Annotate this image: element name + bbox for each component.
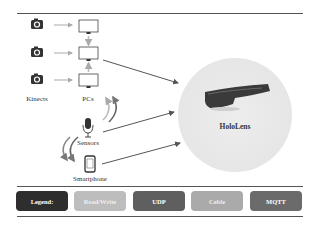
smartphone-label: Smartphone — [73, 175, 107, 183]
camera-icon-1 — [31, 19, 43, 30]
pcs-label: PCs — [82, 95, 93, 103]
legend-read-write: Read/Write — [74, 191, 126, 211]
monitor-icon-1 — [79, 20, 98, 34]
legend-title: Legend: — [16, 191, 68, 211]
sensors-label: Sensors — [77, 139, 99, 147]
hololens-headset-icon — [205, 84, 270, 111]
monitor-icon-2 — [79, 47, 98, 61]
legend-mqtt: MQTT — [250, 191, 302, 211]
legend-cable: Cable — [191, 191, 243, 211]
kinects-label: Kinects — [26, 95, 47, 103]
smartphone-icon — [85, 156, 95, 172]
legend-bottom-divider — [17, 216, 303, 217]
camera-icon-3 — [31, 74, 43, 85]
legend-top-divider — [17, 186, 303, 187]
hololens-label: HoloLens — [220, 122, 251, 131]
camera-icon-2 — [31, 47, 43, 58]
legend-udp: UDP — [133, 191, 185, 211]
microphone-icon — [83, 118, 93, 137]
monitor-icon-3 — [79, 74, 98, 88]
